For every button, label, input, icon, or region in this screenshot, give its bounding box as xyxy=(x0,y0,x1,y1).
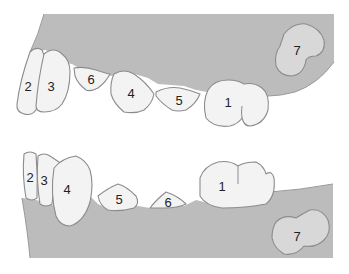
tooth-label: 1 xyxy=(218,179,225,194)
lower-tooth-5: 5 xyxy=(98,184,138,211)
upper-jaw: 2 3 6 4 5 1 7 xyxy=(17,14,334,126)
tooth-label: 3 xyxy=(47,79,54,94)
lower-jaw: 2 3 4 5 6 1 7 xyxy=(22,152,333,258)
tooth-label: 4 xyxy=(127,86,134,101)
dental-diagram: 2 3 6 4 5 1 7 xyxy=(0,0,349,274)
tooth-label: 7 xyxy=(293,43,300,58)
tooth-label: 4 xyxy=(63,182,70,197)
tooth-label: 6 xyxy=(87,72,94,87)
lower-tooth-2: 2 xyxy=(23,152,37,200)
upper-tooth-5: 5 xyxy=(156,88,200,112)
tooth-label: 6 xyxy=(164,195,171,210)
tooth-label: 2 xyxy=(24,79,31,94)
tooth-label: 1 xyxy=(224,95,231,110)
tooth-label: 5 xyxy=(175,93,182,108)
lower-tooth-1: 1 xyxy=(200,162,274,209)
tooth-label: 2 xyxy=(26,170,33,185)
upper-tooth-1: 1 xyxy=(204,80,268,126)
tooth-label: 3 xyxy=(40,173,47,188)
tooth-label: 7 xyxy=(293,229,300,244)
tooth-label: 5 xyxy=(115,192,122,207)
